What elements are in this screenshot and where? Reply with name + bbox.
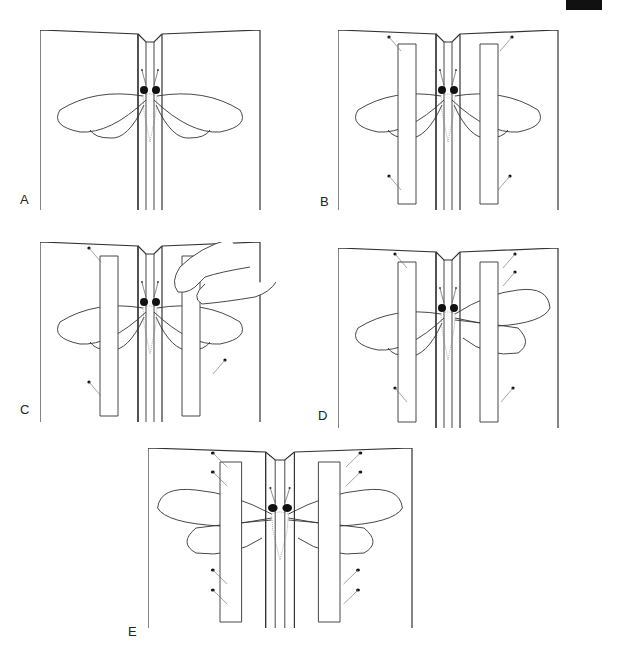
panel-label-d: D [318,408,327,423]
panel-label-a: A [20,192,29,207]
panel-b [338,30,563,212]
panel-e [148,448,413,630]
corner-mark [566,0,602,10]
panel-d [338,248,563,430]
panel-label-c: C [20,402,29,417]
illustration-e [148,448,413,630]
panel-a [40,30,265,212]
illustration-d [338,248,563,430]
illustration-a [40,30,265,212]
panel-label-b: B [320,194,329,209]
illustration-b [338,30,563,212]
panel-label-e: E [128,624,137,639]
illustration-c [40,242,280,424]
panel-c [40,242,280,424]
